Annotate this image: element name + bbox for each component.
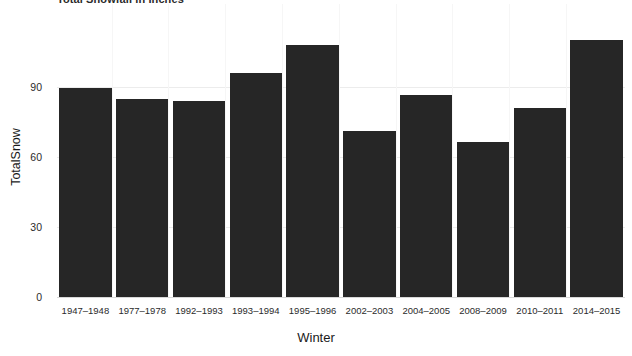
x-tick-label: 1977–1978 xyxy=(118,305,166,316)
x-tick-label: 1995–1996 xyxy=(289,305,337,316)
bar[interactable] xyxy=(59,88,111,297)
x-axis-line xyxy=(57,297,625,298)
bars-layer xyxy=(57,0,625,297)
bar[interactable] xyxy=(457,142,509,297)
x-tick-label: 1993–1994 xyxy=(232,305,280,316)
bar-chart: Total Snowfall in Inches TotalSnow 03060… xyxy=(0,0,632,356)
x-tick-label: 1947–1948 xyxy=(62,305,110,316)
x-axis: 1947–19481977–19781992–19931993–19941995… xyxy=(57,305,625,325)
bar[interactable] xyxy=(116,99,168,297)
y-axis: TotalSnow 0306090 xyxy=(0,0,50,356)
bar[interactable] xyxy=(230,73,282,297)
x-axis-title: Winter xyxy=(0,330,632,345)
x-tick-label: 1992–1993 xyxy=(175,305,223,316)
bar[interactable] xyxy=(570,40,622,297)
bar[interactable] xyxy=(286,45,338,297)
y-tick-label: 60 xyxy=(30,151,42,163)
y-tick-label: 0 xyxy=(36,291,42,303)
bar[interactable] xyxy=(514,108,566,297)
x-tick-label: 2002–2003 xyxy=(346,305,394,316)
bar[interactable] xyxy=(343,131,395,297)
bar[interactable] xyxy=(173,101,225,297)
x-tick-label: 2010–2011 xyxy=(516,305,563,316)
x-tick-label: 2014–2015 xyxy=(573,305,621,316)
y-tick-label: 30 xyxy=(30,221,42,233)
x-tick-label: 2008–2009 xyxy=(459,305,507,316)
bar[interactable] xyxy=(400,95,452,297)
y-tick-label: 90 xyxy=(30,81,42,93)
y-axis-title: TotalSnow xyxy=(9,107,23,207)
x-tick-label: 2004–2005 xyxy=(402,305,450,316)
